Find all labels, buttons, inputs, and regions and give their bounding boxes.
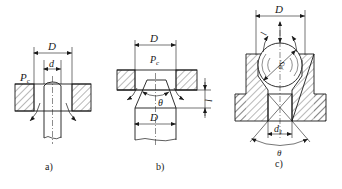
seat-plate-right: [72, 84, 91, 111]
label-pc-a: Pc: [19, 71, 31, 85]
caption-a: a): [45, 161, 53, 173]
label-D-c: D: [274, 3, 283, 15]
caption-b: b): [156, 161, 164, 173]
label-theta-b: θ: [158, 97, 163, 108]
seat-plate-right: [176, 70, 197, 90]
angle-theta-arc: [143, 92, 169, 96]
panel-c: [235, 10, 326, 146]
label-l-c: l: [258, 30, 268, 36]
panel-b: [117, 40, 211, 147]
seat-plate-left: [15, 84, 34, 111]
label-D-b-top: D: [149, 32, 158, 44]
label-d-a: d: [49, 58, 55, 69]
label-D-b-bottom: D: [149, 111, 158, 123]
label-theta-c: θ: [277, 148, 282, 158]
valve-seat-diagram: D d Pc a) D Pc θ l D b): [0, 0, 342, 189]
angle-theta-arc-c: [252, 139, 308, 146]
label-l-b: l: [203, 99, 214, 102]
label-D-a: D: [47, 40, 56, 52]
caption-c: c): [275, 158, 283, 170]
label-pc-b: Pc: [149, 54, 160, 67]
seat-plate-left: [117, 70, 135, 90]
